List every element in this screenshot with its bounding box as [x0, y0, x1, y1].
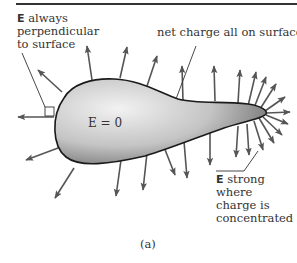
label-net-charge: net charge all on surface	[157, 26, 297, 39]
figure-caption: (a)	[140, 238, 156, 251]
label-e-perpendicular: E always perpendicular to surface	[17, 12, 99, 51]
label-e-strong: E strong where charge is concentrated	[216, 173, 293, 225]
conductor-body	[55, 79, 267, 164]
label-interior-field: E = 0	[88, 117, 122, 130]
